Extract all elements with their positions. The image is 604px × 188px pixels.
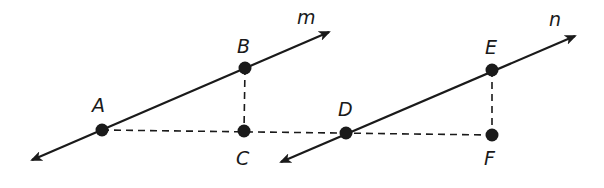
diagram-canvas: mnABCDEF [0,0,604,188]
line-label-n: n [549,8,561,30]
point-d [340,127,353,140]
line-n [281,36,575,162]
line-label-m: m [297,6,316,28]
point-label-a: A [90,94,105,116]
point-b [239,62,252,75]
segment-bc [244,68,245,131]
point-e [486,64,499,77]
point-label-b: B [237,35,250,57]
point-label-c: C [236,147,250,169]
line-m [32,32,329,160]
point-label-e: E [485,36,497,58]
labels: mnABCDEF [90,6,561,169]
point-label-f: F [484,147,496,169]
points [96,62,499,142]
point-f [486,129,499,142]
dashed-segments [102,68,492,135]
point-a [96,124,109,137]
segment-ac-df [102,130,492,135]
point-c [238,125,251,138]
point-label-d: D [338,98,353,120]
